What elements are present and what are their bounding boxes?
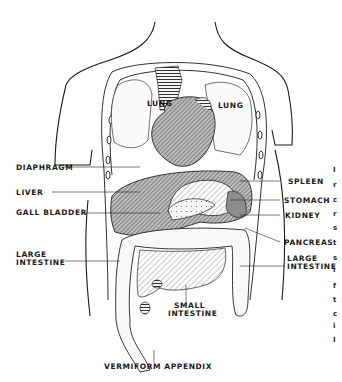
label-spleen: SPLEEN	[288, 178, 324, 186]
edge-text-fragment: t	[333, 296, 336, 304]
label-small-intestine-2: INTESTINE	[168, 310, 217, 318]
label-large-intestine-left-2: INTESTINE	[16, 259, 65, 267]
edge-text-fragment: s	[333, 224, 337, 232]
edge-text-fragment: I	[333, 166, 336, 174]
label-gall-bladder: GALL BLADDER	[16, 209, 87, 217]
edge-text-fragment: c	[333, 196, 337, 204]
label-large-intestine-right-2: INTESTINE	[287, 263, 336, 271]
edge-text-fragment: c	[333, 310, 337, 318]
label-lung-left: LUNG	[147, 100, 172, 108]
edge-text-fragment: I	[333, 336, 336, 344]
edge-text-fragment: r	[333, 210, 336, 218]
edge-text-fragment: r	[333, 181, 336, 189]
anatomy-diagram	[0, 0, 342, 382]
label-diaphragm: DIAPHRAGM	[16, 164, 73, 172]
edge-text-fragment: f	[333, 282, 336, 290]
edge-text-fragment: s	[333, 254, 337, 262]
small-intestine	[137, 248, 226, 297]
label-vermiform-appendix: VERMIFORM APPENDIX	[104, 363, 212, 371]
label-pancreas: PANCREAS	[284, 239, 333, 247]
edge-text-fragment: i	[333, 266, 335, 274]
label-liver: LIVER	[16, 189, 43, 197]
label-stomach: STOMACH	[284, 197, 330, 205]
edge-text-fragment: i	[333, 322, 335, 330]
label-lung-right: LUNG	[218, 102, 243, 110]
label-kidney: KIDNEY	[285, 212, 320, 220]
edge-text-fragment: t	[333, 239, 336, 247]
left-lung	[111, 80, 152, 148]
